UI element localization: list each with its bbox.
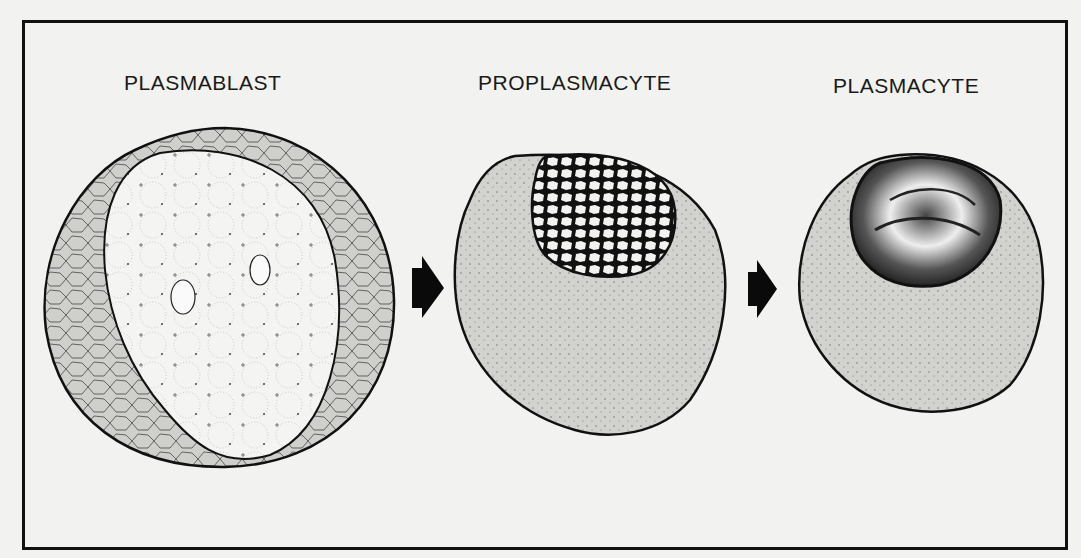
arrow-icon [412, 256, 444, 318]
plasmacyte-cell [799, 154, 1043, 411]
plasmablast-cell [45, 128, 394, 467]
proplasmacyte-cell [455, 154, 725, 434]
diagram-canvas [0, 0, 1081, 558]
arrow-icon [748, 260, 777, 318]
